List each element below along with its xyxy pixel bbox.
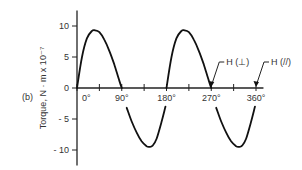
torque-curve-segment — [167, 30, 212, 88]
torque-curve-segment — [77, 30, 122, 88]
y-ticks: 1050- 5- 10 — [53, 21, 77, 155]
y-tick-label: 0 — [64, 83, 69, 93]
y-axis-label: Torque, N · m x 10⁻⁷ — [38, 47, 48, 129]
axes — [77, 11, 263, 166]
x-tick-label: 180° — [157, 93, 176, 103]
torque-curve-segment — [127, 107, 166, 147]
annotation-arrowhead-icon — [254, 81, 260, 87]
x-tick-label: 360° — [247, 93, 266, 103]
torque-chart: (b) Torque, N · m x 10⁻⁷ 1050- 5- 10 0°9… — [0, 0, 302, 170]
annotation-leader-line — [212, 62, 224, 83]
y-tick-label: - 10 — [53, 145, 69, 155]
annotation-label: H (⊥) — [226, 57, 249, 67]
annotations: H (⊥)H (//) — [209, 57, 291, 87]
annotation-label: H (//) — [271, 57, 291, 67]
x-tick-label: 0° — [82, 93, 91, 103]
y-tick-label: - 5 — [58, 114, 69, 124]
panel-label: (b) — [22, 92, 33, 102]
x-tick-label: 270° — [202, 93, 221, 103]
y-tick-label: 5 — [64, 52, 69, 62]
annotation-leader-line — [257, 62, 269, 83]
x-tick-label: 90° — [115, 93, 129, 103]
y-tick-label: 10 — [59, 21, 69, 31]
x-ticks: 0°90°180°270°360° — [77, 84, 266, 103]
torque-curve-segment — [216, 107, 255, 147]
